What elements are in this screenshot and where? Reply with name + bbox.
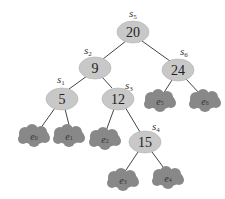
bst-diagram: s5 20 s2 9 s6 24 s1 5 s3 12 s4 15 e0 e1 … [0,0,225,199]
internal-node-s6: s6 24 [162,45,194,81]
node-key: 15 [138,135,152,150]
leaf-e3: e3 [107,168,139,191]
leaf-e2: e2 [89,127,121,150]
node-key: 20 [126,25,140,40]
internal-node-s5: s5 20 [117,7,149,43]
leaf-e6: e6 [189,89,221,112]
edge-s5-s6 [142,41,170,61]
leaf-e0: e0 [18,124,50,147]
svg-text:s1: s1 [57,73,65,87]
internal-node-s2: s2 9 [79,44,111,79]
node-key: 9 [92,61,99,76]
node-key: 12 [111,92,125,107]
svg-text:s4: s4 [152,120,160,134]
edge-s6-e6 [186,79,200,94]
node-key: 24 [171,63,185,78]
edge-s5-s2 [103,41,126,59]
svg-text:s6: s6 [180,45,188,59]
internal-node-s3: s3 12 [102,79,134,110]
svg-text:s5: s5 [129,7,137,21]
edge-s2-s3 [102,77,112,88]
node-key: 5 [59,92,66,107]
edge-s4-e3 [124,152,138,173]
leaf-e1: e1 [53,124,85,147]
svg-text:s2: s2 [84,44,92,58]
internal-node-s1: s1 5 [46,73,78,110]
leaf-e4: e4 [152,166,184,189]
internal-node-s4: s4 15 [129,120,161,153]
leaf-e5: e5 [144,89,176,112]
edge-s2-s1 [69,76,87,89]
edge-s3-e2 [106,109,114,131]
edge-s1-e0 [40,108,55,129]
edge-s3-s4 [125,107,140,132]
